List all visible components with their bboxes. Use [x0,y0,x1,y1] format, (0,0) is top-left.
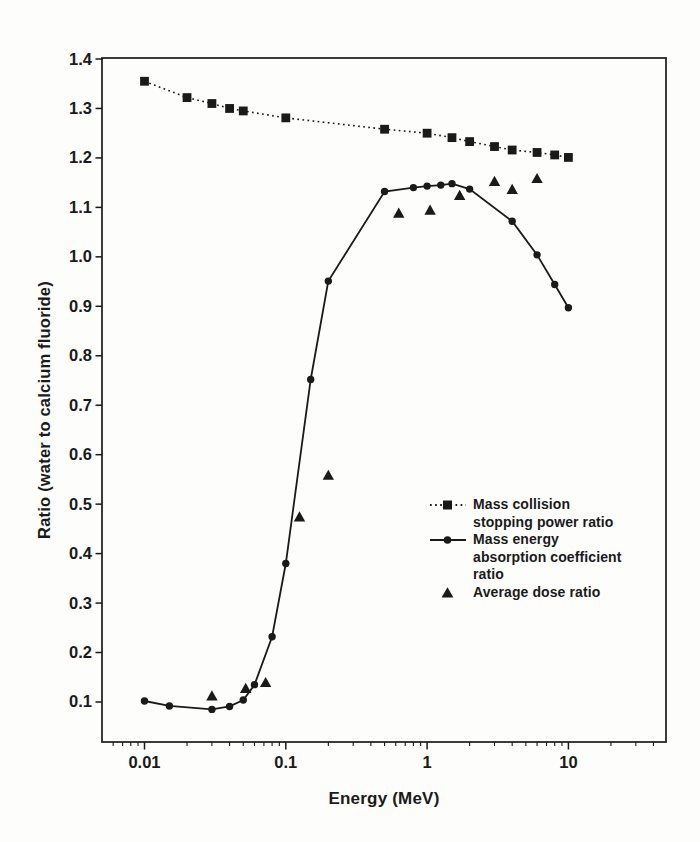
data-point-triangle [424,205,435,215]
legend: Mass collision stopping power ratio Mass… [429,496,621,602]
data-point-circle [410,184,417,191]
data-point-circle [533,251,540,258]
data-point-square [183,93,192,102]
y-axis-tick-label: 0.1 [69,692,92,710]
data-point-triangle [531,173,542,183]
y-axis-tick-label: 0.8 [69,346,92,364]
legend-entry-absorption-coefficient: Mass energy absorption coefficient ratio [429,531,621,584]
square-dotted-legend-icon [429,496,467,514]
data-point-square [140,77,149,86]
x-axis-tick-label: 0.01 [128,753,160,771]
data-point-triangle [294,511,305,521]
y-axis-tick-label: 1.3 [69,99,92,117]
data-point-triangle [323,470,334,480]
legend-label: Mass energy absorption coefficient ratio [473,531,621,584]
data-point-circle [282,560,289,567]
data-point-square [448,133,457,142]
y-axis-tick-label: 0.3 [69,594,92,612]
y-axis-tick-label: 0.4 [69,544,93,562]
y-axis-tick-label: 0.6 [69,445,92,463]
data-point-circle [141,697,148,704]
plot-frame [102,58,666,742]
y-axis-tick-label: 0.5 [69,495,92,513]
data-point-circle [508,218,515,225]
data-point-square [508,146,517,155]
data-point-circle [565,304,572,311]
x-axis-title: Energy (MeV) [328,789,439,809]
data-point-triangle [506,184,517,194]
y-axis-tick-label: 1.1 [69,198,92,216]
data-point-square [423,129,432,138]
data-point-circle [307,376,314,383]
data-point-triangle [454,190,465,200]
figure-page: 0.010.11100.10.20.30.40.50.60.70.80.91.0… [0,0,700,842]
data-point-triangle [489,176,500,186]
data-point-square [550,151,559,160]
data-point-circle [437,181,444,188]
data-point-circle [448,180,455,187]
legend-label: Average dose ratio [473,584,600,602]
data-point-circle [166,702,173,709]
data-point-square [380,125,389,134]
y-axis-tick-label: 1.4 [69,50,93,68]
x-axis-tick-label: 1 [423,753,432,771]
legend-entry-stopping-power: Mass collision stopping power ratio [429,496,621,531]
data-point-circle [466,185,473,192]
y-axis-tick-label: 0.2 [69,643,92,661]
y-axis-tick-label: 1.0 [69,247,92,265]
data-point-square [533,148,542,157]
x-axis-tick-label: 10 [559,753,577,771]
legend-label: Mass collision stopping power ratio [473,496,613,531]
data-point-triangle [393,208,404,218]
y-axis-tick-label: 1.2 [69,148,92,166]
circle-solid-legend-icon [429,531,467,549]
data-point-triangle [206,690,217,700]
series-line-mass-energy-absorption-coefficient-ratio [145,184,569,710]
data-point-circle [423,182,430,189]
x-axis-tick-label: 0.1 [274,753,297,771]
data-point-square [281,113,290,122]
data-point-square [239,107,248,116]
data-point-circle [325,277,332,284]
data-point-square [225,104,234,113]
y-axis-title: Ratio (water to calcium fluoride) [35,281,54,539]
y-axis-tick-label: 0.7 [69,396,92,414]
data-point-circle [240,696,247,703]
data-point-circle [551,281,558,288]
data-point-circle [381,188,388,195]
data-point-triangle [260,677,271,687]
data-point-circle [226,703,233,710]
data-point-square [490,142,499,151]
data-point-circle [251,681,258,688]
data-point-square [208,99,217,108]
y-axis-tick-label: 0.9 [69,297,92,315]
legend-entry-average-dose: Average dose ratio [429,584,621,602]
data-point-triangle [240,683,251,693]
triangle-legend-icon [429,584,467,602]
data-point-circle [268,633,275,640]
data-point-circle [208,706,215,713]
ratio-vs-energy-chart: 0.010.11100.10.20.30.40.50.60.70.80.91.0… [0,0,700,842]
data-point-square [564,153,573,162]
series-line-mass-collision-stopping-power-ratio [145,81,569,157]
data-point-square [465,137,474,146]
